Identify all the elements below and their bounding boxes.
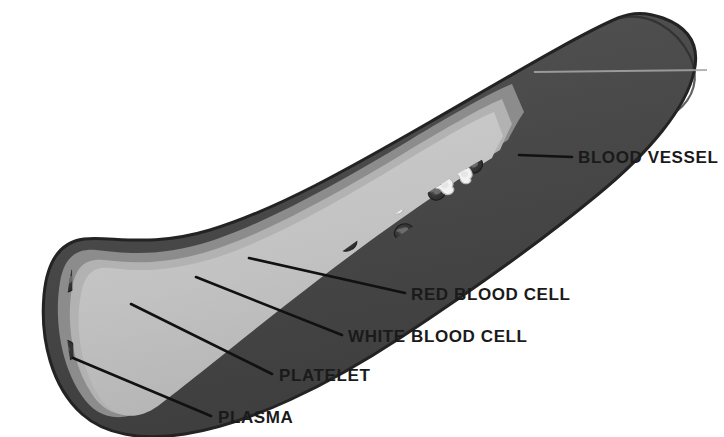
label-platelet: PLATELET: [279, 366, 370, 385]
label-red-blood-cell: RED BLOOD CELL: [411, 285, 571, 304]
diagram-canvas: BLOOD VESSELRED BLOOD CELLWHITE BLOOD CE…: [0, 0, 724, 437]
platelet: [25, 339, 43, 354]
blood-vessel-diagram: BLOOD VESSELRED BLOOD CELLWHITE BLOOD CE…: [0, 0, 724, 437]
label-plasma: PLASMA: [218, 408, 293, 427]
label-white-blood-cell: WHITE BLOOD CELL: [348, 327, 528, 346]
label-blood-vessel: BLOOD VESSEL: [578, 148, 718, 167]
white-blood-cell: [17, 352, 53, 390]
